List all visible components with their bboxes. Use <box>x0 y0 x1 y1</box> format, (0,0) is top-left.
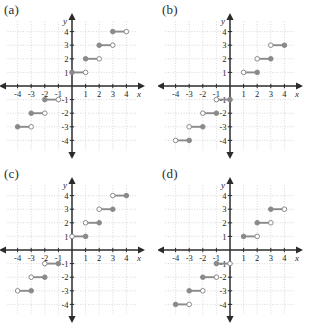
coordinate-plane: -4-3-2-112344321-1-2-3-4xy <box>0 164 157 327</box>
x-tick-label: -3 <box>186 253 193 263</box>
open-endpoint-marker <box>43 111 48 116</box>
y-tick-label: -1 <box>61 259 68 269</box>
step-segment <box>83 57 101 62</box>
x-tick-label: 1 <box>241 253 245 263</box>
open-endpoint-marker <box>97 57 102 62</box>
open-endpoint-marker <box>83 70 88 75</box>
panel-a-plot: -4-3-2-112344321-1-2-3-4xy <box>0 0 157 163</box>
closed-endpoint-marker <box>214 261 219 266</box>
open-endpoint-marker <box>56 97 61 102</box>
x-tick-label: 3 <box>269 253 273 263</box>
closed-endpoint-marker <box>43 97 48 102</box>
y-tick-label: -2 <box>219 272 226 282</box>
x-tick-label: -2 <box>199 253 206 263</box>
x-tick-label: 2 <box>255 253 259 263</box>
x-tick-label: -4 <box>172 89 180 99</box>
y-tick-label: 4 <box>64 191 69 201</box>
step-segment <box>241 234 259 239</box>
y-tick-label: -4 <box>61 300 69 310</box>
y-axis-label: y <box>220 16 225 26</box>
closed-endpoint-marker <box>43 275 48 280</box>
y-tick-label: 1 <box>222 68 226 78</box>
closed-endpoint-marker <box>70 70 75 75</box>
open-endpoint-marker <box>111 43 116 48</box>
open-endpoint-marker <box>97 207 102 212</box>
open-endpoint-marker <box>29 275 34 280</box>
open-endpoint-marker <box>173 138 178 143</box>
closed-endpoint-marker <box>111 207 116 212</box>
open-endpoint-marker <box>255 234 260 239</box>
y-tick-label: 1 <box>64 68 68 78</box>
x-tick-label: 3 <box>111 89 115 99</box>
x-tick-label: -4 <box>14 253 22 263</box>
open-endpoint-marker <box>124 29 129 34</box>
closed-endpoint-marker <box>255 70 260 75</box>
step-segment <box>269 43 287 48</box>
y-tick-label: 4 <box>64 27 69 37</box>
step-segment <box>111 193 129 198</box>
open-endpoint-marker <box>269 221 274 226</box>
y-tick-label: 2 <box>222 54 226 64</box>
step-segment <box>70 70 88 75</box>
y-tick-label: -3 <box>61 122 68 132</box>
panel-b-plot: -4-3-2-112344321-1-2-3-4xy <box>158 0 315 163</box>
x-tick-label: -3 <box>28 89 35 99</box>
open-endpoint-marker <box>255 57 260 62</box>
step-segment <box>97 43 115 48</box>
open-endpoint-marker <box>15 289 20 294</box>
closed-endpoint-marker <box>124 193 129 198</box>
panel-c: (c) -4-3-2-112344321-1-2-3-4xy <box>0 164 157 327</box>
coordinate-plane: -4-3-2-112344321-1-2-3-4xy <box>158 164 315 327</box>
step-segment <box>201 275 219 280</box>
closed-endpoint-marker <box>201 275 206 280</box>
y-axis-label: y <box>220 180 225 190</box>
panel-d: (d) -4-3-2-112344321-1-2-3-4xy <box>158 164 315 327</box>
step-segment <box>43 97 61 102</box>
open-endpoint-marker <box>282 207 287 212</box>
y-axis-label: y <box>62 16 67 26</box>
closed-endpoint-marker <box>97 221 102 226</box>
step-segment <box>29 275 47 280</box>
closed-endpoint-marker <box>214 111 219 116</box>
step-segment <box>70 234 88 239</box>
step-segment <box>83 221 101 226</box>
x-axis-label: x <box>294 89 299 99</box>
closed-endpoint-marker <box>83 234 88 239</box>
x-tick-label: 1 <box>83 89 87 99</box>
x-tick-label: 2 <box>255 89 259 99</box>
x-tick-label: 2 <box>97 253 101 263</box>
open-endpoint-marker <box>214 275 219 280</box>
step-segment <box>255 221 273 226</box>
panel-d-plot: -4-3-2-112344321-1-2-3-4xy <box>158 164 315 327</box>
x-tick-label: 4 <box>282 89 287 99</box>
x-tick-label: 2 <box>97 89 101 99</box>
step-segment <box>255 57 273 62</box>
y-tick-label: 4 <box>222 191 227 201</box>
step-segment <box>97 207 115 212</box>
open-endpoint-marker <box>201 289 206 294</box>
x-tick-label: -4 <box>14 89 22 99</box>
open-endpoint-marker <box>228 261 233 266</box>
y-tick-label: -4 <box>61 136 69 146</box>
closed-endpoint-marker <box>29 111 34 116</box>
y-tick-label: 3 <box>222 204 226 214</box>
x-tick-label: 1 <box>83 253 87 263</box>
closed-endpoint-marker <box>173 302 178 307</box>
x-tick-label: 3 <box>269 89 273 99</box>
closed-endpoint-marker <box>255 221 260 226</box>
open-endpoint-marker <box>111 193 116 198</box>
closed-endpoint-marker <box>15 125 20 130</box>
step-segment <box>173 302 191 307</box>
closed-endpoint-marker <box>111 29 116 34</box>
step-segment <box>269 207 287 212</box>
x-tick-label: -2 <box>199 89 206 99</box>
y-tick-label: -4 <box>219 136 227 146</box>
y-tick-label: -2 <box>61 272 68 282</box>
y-axis-label: y <box>62 180 67 190</box>
y-tick-label: 4 <box>222 27 227 37</box>
step-segment <box>15 289 33 294</box>
step-segment <box>15 125 33 130</box>
step-segment <box>241 70 259 75</box>
step-segment <box>111 29 129 34</box>
x-axis-label: x <box>136 89 141 99</box>
